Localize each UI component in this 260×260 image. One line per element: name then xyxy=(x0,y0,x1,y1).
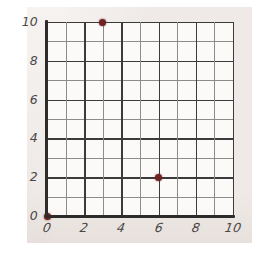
gridline-vertical xyxy=(140,22,141,216)
gridline-vertical xyxy=(84,22,85,216)
plot-area xyxy=(47,22,233,216)
x-tick-label: 0 xyxy=(42,222,52,235)
gridline-vertical xyxy=(214,22,215,216)
data-point xyxy=(155,174,162,181)
x-axis-line xyxy=(45,215,235,218)
y-tick-label: 6 xyxy=(0,93,43,106)
gridline-vertical xyxy=(121,22,122,216)
x-tick-label: 6 xyxy=(154,222,164,235)
gridline-vertical xyxy=(103,22,104,216)
gridline-vertical xyxy=(66,22,67,216)
y-axis-tick-labels: 0246810 xyxy=(0,0,43,260)
x-axis-tick-labels: 0246810 xyxy=(0,222,260,242)
x-tick-label: 8 xyxy=(191,222,201,235)
chart-screenshot: 0246810 0246810 xyxy=(0,0,260,260)
y-tick-label: 10 xyxy=(0,16,43,29)
gridline-vertical xyxy=(196,22,197,216)
x-tick-label: 2 xyxy=(79,222,89,235)
x-tick-label: 4 xyxy=(116,222,126,235)
gridline-vertical xyxy=(233,22,234,216)
y-axis-line xyxy=(45,20,48,218)
data-point xyxy=(99,19,106,26)
y-tick-label: 4 xyxy=(0,132,43,145)
y-tick-label: 2 xyxy=(0,171,43,184)
y-tick-label: 8 xyxy=(0,55,43,68)
y-tick-label: 0 xyxy=(0,210,43,223)
x-tick-label: 10 xyxy=(224,222,242,235)
gridline-vertical xyxy=(177,22,178,216)
gridline-vertical xyxy=(159,22,160,216)
